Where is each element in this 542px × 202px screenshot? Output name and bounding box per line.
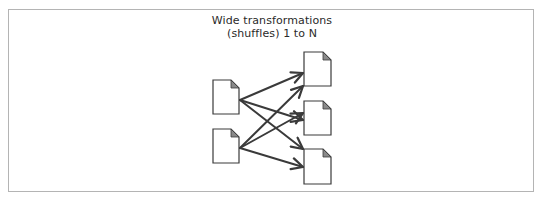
target-partition-1 xyxy=(304,52,331,86)
shuffle-diagram xyxy=(0,0,542,202)
folded-corner-icon xyxy=(231,80,239,88)
target-partition-2 xyxy=(304,101,331,135)
edge-src2-dst3 xyxy=(240,148,303,167)
target-partition-3 xyxy=(304,149,331,184)
folded-corner-icon xyxy=(323,101,331,109)
folded-corner-icon xyxy=(231,129,239,137)
folded-corner-icon xyxy=(323,52,331,60)
edges xyxy=(240,73,303,167)
folded-corner-icon xyxy=(323,149,331,157)
source-partition-1 xyxy=(213,80,239,114)
source-partition-2 xyxy=(213,129,239,163)
